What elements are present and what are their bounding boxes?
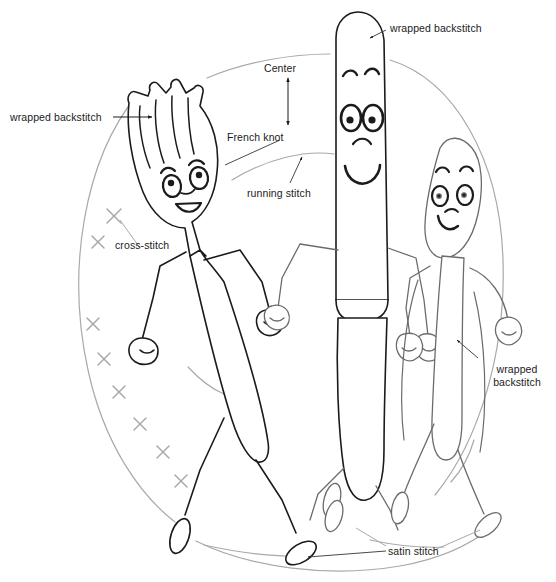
label-cross-stitch: cross-stitch xyxy=(115,239,169,252)
label-wrapped-backstitch-fork: wrapped backstitch xyxy=(10,111,102,124)
fork-foot-right xyxy=(282,536,320,569)
cross-stitch-mark xyxy=(107,209,121,223)
knife-pupil-left xyxy=(347,117,353,123)
cross-stitch-mark xyxy=(92,236,104,248)
label-wrapped-backstitch-spoon: wrapped backstitch xyxy=(481,363,553,388)
spoon-leg-right xyxy=(458,450,484,514)
spoon-foot-right xyxy=(471,508,505,541)
outer-arc-bottom xyxy=(196,527,492,571)
fork-hand-left xyxy=(129,338,158,364)
cross-stitch-mark xyxy=(98,353,110,365)
cross-stitch-mark xyxy=(175,475,187,487)
spoon-hand-right xyxy=(495,317,521,345)
knife-character xyxy=(264,12,441,534)
label-satin-stitch: satin stitch xyxy=(388,545,439,558)
fork-pupil-right xyxy=(197,173,202,178)
spoon-leg-left xyxy=(404,424,434,494)
fork-handle xyxy=(190,250,269,462)
label-running-stitch: running stitch xyxy=(247,187,311,200)
fork-arm-left xyxy=(142,252,186,340)
spoon-hand-left xyxy=(396,333,422,361)
spoon-handle xyxy=(432,256,464,460)
spoon-pupil-right xyxy=(462,193,466,197)
knife-hand-left xyxy=(264,305,289,329)
leader-satin-stitch-left xyxy=(308,551,386,557)
cross-stitch-mark xyxy=(134,418,146,430)
label-wrapped-backstitch-knife: wrapped backstitch xyxy=(390,22,482,35)
running-stitch-arc xyxy=(232,153,334,180)
leader-running-stitch xyxy=(290,157,302,183)
embroidery-pattern-artwork xyxy=(0,0,556,582)
knife-pupil-right xyxy=(369,117,375,123)
knife-handle xyxy=(337,318,387,500)
leader-satin-stitch-mid xyxy=(356,528,386,546)
fork-character xyxy=(128,80,320,570)
label-center: Center xyxy=(264,62,296,75)
spoon-character xyxy=(389,138,522,541)
fork-leg-right xyxy=(256,460,296,533)
cross-stitch-mark xyxy=(157,446,169,458)
fork-pupil-left xyxy=(169,181,174,186)
spoon-pupil-left xyxy=(437,194,441,198)
cross-stitch-mark xyxy=(113,386,125,398)
fork-leg-left xyxy=(185,418,224,515)
knife-head-outline xyxy=(336,12,388,300)
fork-foot-left xyxy=(166,516,194,556)
spoon-foot-left xyxy=(389,491,411,526)
diagram-canvas: wrapped backstitch wrapped backstitch wr… xyxy=(0,0,556,582)
knife-arm-left xyxy=(278,244,338,308)
label-french-knot: French knot xyxy=(227,131,284,144)
cross-stitch-mark xyxy=(87,318,99,330)
